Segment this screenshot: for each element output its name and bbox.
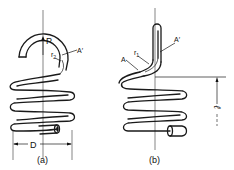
coil-body-b — [119, 72, 187, 136]
hook-straight-b — [140, 24, 161, 76]
leader-a-prime — [62, 50, 77, 55]
subfigure-a: P r2 A′ D (a) — [10, 10, 84, 165]
label-diameter-d: D — [30, 140, 37, 150]
spring-hook-diagram: P r2 A′ D (a) — [0, 0, 234, 170]
dimension-d — [13, 143, 72, 146]
coil-body-a — [10, 74, 74, 134]
force-arrow-p — [41, 36, 45, 55]
bend-a — [60, 60, 64, 74]
subfigure-b: r1 A A′ ℓ (b) — [119, 8, 226, 165]
label-a: A — [121, 56, 126, 63]
leader-a — [126, 60, 138, 70]
dimension-length — [216, 77, 219, 126]
caption-a: (a) — [37, 155, 48, 165]
radius-r1-leader — [138, 56, 149, 64]
caption-b: (b) — [149, 155, 160, 165]
label-length: ℓ — [212, 105, 223, 109]
label-force-p: P — [46, 36, 52, 46]
label-a-prime-a: A′ — [77, 47, 84, 54]
label-a-prime-b: A′ — [174, 36, 181, 43]
leader-a-prime-b — [160, 43, 175, 52]
